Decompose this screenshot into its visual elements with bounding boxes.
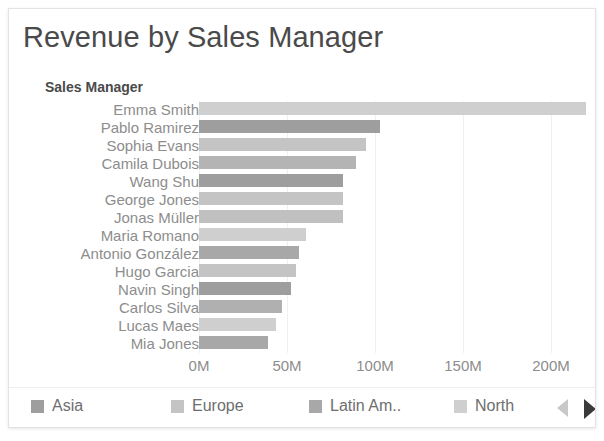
category-label: George Jones bbox=[19, 191, 199, 209]
bar[interactable] bbox=[199, 138, 366, 151]
category-label: Navin Singh bbox=[19, 281, 199, 299]
legend-item-label: Latin Am.. bbox=[330, 397, 401, 415]
legend-item-label: Asia bbox=[52, 397, 83, 415]
bar-chart-plot-area: Emma SmithPablo RamirezSophia EvansCamil… bbox=[9, 101, 596, 353]
triangle-right-icon[interactable] bbox=[584, 399, 596, 419]
legend-swatch-icon bbox=[171, 400, 184, 413]
legend-item-label: Europe bbox=[192, 397, 244, 415]
chart-row: Camila Dubois bbox=[9, 155, 596, 173]
triangle-left-icon[interactable] bbox=[557, 399, 568, 417]
chart-row: Maria Romano bbox=[9, 227, 596, 245]
category-label: Lucas Maes bbox=[19, 317, 199, 335]
chart-row: Mia Jones bbox=[9, 335, 596, 353]
visualization-frame: Revenue by Sales Manager Sales Manager E… bbox=[8, 8, 596, 428]
legend-item-asia[interactable]: Asia bbox=[31, 397, 83, 415]
legend-item-north[interactable]: North bbox=[454, 397, 514, 415]
bar[interactable] bbox=[199, 192, 343, 205]
chart-row: Jonas Müller bbox=[9, 209, 596, 227]
bar[interactable] bbox=[199, 246, 299, 259]
category-label: Jonas Müller bbox=[19, 209, 199, 227]
bar[interactable] bbox=[199, 156, 356, 169]
bar[interactable] bbox=[199, 102, 586, 115]
chart-row: Sophia Evans bbox=[9, 137, 596, 155]
bar[interactable] bbox=[199, 228, 306, 241]
bar[interactable] bbox=[199, 210, 343, 223]
legend-item-europe[interactable]: Europe bbox=[171, 397, 244, 415]
chart-row: Pablo Ramirez bbox=[9, 119, 596, 137]
chart-row: George Jones bbox=[9, 191, 596, 209]
x-axis-tick-label: 200M bbox=[532, 357, 570, 374]
legend-item-latin-am[interactable]: Latin Am.. bbox=[309, 397, 401, 415]
x-axis-tick-label: 100M bbox=[356, 357, 394, 374]
bar[interactable] bbox=[199, 174, 343, 187]
bar[interactable] bbox=[199, 318, 276, 331]
category-label: Pablo Ramirez bbox=[19, 119, 199, 137]
chart-row: Carlos Silva bbox=[9, 299, 596, 317]
bar[interactable] bbox=[199, 264, 296, 277]
category-label: Antonio González bbox=[19, 245, 199, 263]
chart-row: Navin Singh bbox=[9, 281, 596, 299]
chart-row: Lucas Maes bbox=[9, 317, 596, 335]
chart-row: Hugo Garcia bbox=[9, 263, 596, 281]
category-label: Carlos Silva bbox=[19, 299, 199, 317]
axis-caption-sales-manager: Sales Manager bbox=[45, 79, 143, 95]
legend-item-label: North bbox=[475, 397, 514, 415]
legend-swatch-icon bbox=[309, 400, 322, 413]
category-label: Mia Jones bbox=[19, 335, 199, 353]
bar[interactable] bbox=[199, 336, 268, 349]
x-axis-tick-label: 50M bbox=[272, 357, 301, 374]
category-label: Camila Dubois bbox=[19, 155, 199, 173]
category-label: Wang Shu bbox=[19, 173, 199, 191]
category-label: Emma Smith bbox=[19, 101, 199, 119]
x-axis: 0M50M100M150M200M bbox=[9, 355, 596, 381]
category-label: Sophia Evans bbox=[19, 137, 199, 155]
bar[interactable] bbox=[199, 282, 291, 295]
x-axis-tick-label: 150M bbox=[444, 357, 482, 374]
category-label: Hugo Garcia bbox=[19, 263, 199, 281]
legend: AsiaEuropeLatin Am..North bbox=[9, 387, 596, 428]
legend-swatch-icon bbox=[454, 400, 467, 413]
bar[interactable] bbox=[199, 300, 282, 313]
category-label: Maria Romano bbox=[19, 227, 199, 245]
chart-row: Emma Smith bbox=[9, 101, 596, 119]
page-title: Revenue by Sales Manager bbox=[23, 21, 383, 54]
chart-row: Antonio González bbox=[9, 245, 596, 263]
x-axis-tick-label: 0M bbox=[189, 357, 210, 374]
bar[interactable] bbox=[199, 120, 380, 133]
chart-row: Wang Shu bbox=[9, 173, 596, 191]
legend-swatch-icon bbox=[31, 400, 44, 413]
